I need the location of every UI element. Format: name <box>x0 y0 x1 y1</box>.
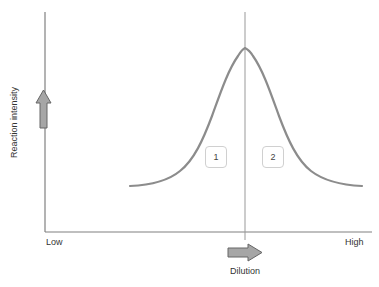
y-axis-title: Reaction intensity <box>10 78 19 168</box>
figure-root: Reaction intensity Low High Dilution 1 2 <box>0 0 379 287</box>
x-axis-low-label: Low <box>46 238 63 247</box>
right-arrow-icon <box>228 244 262 261</box>
reaction-intensity-curve <box>130 48 362 186</box>
zone-box-2: 2 <box>262 146 284 168</box>
up-arrow-icon <box>36 90 51 128</box>
zone-box-1: 1 <box>205 146 227 168</box>
x-axis-title: Dilution <box>208 267 282 276</box>
x-axis-high-label: High <box>345 238 364 247</box>
